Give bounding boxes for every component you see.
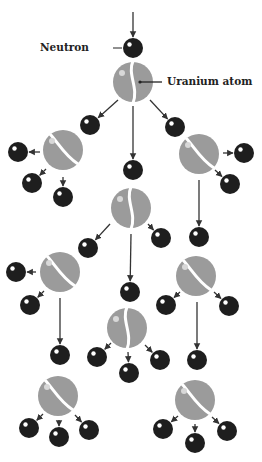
neutron	[153, 419, 173, 439]
highlight-icon	[182, 264, 188, 270]
highlight-icon	[127, 42, 131, 46]
highlight-icon	[155, 232, 159, 236]
neutron	[50, 345, 70, 365]
neutron-path-arrow	[171, 416, 178, 422]
highlight-icon	[84, 119, 88, 123]
neutron-path-arrow	[215, 170, 222, 176]
highlight-icon	[185, 142, 191, 148]
highlight-icon	[117, 196, 123, 202]
neutron	[156, 295, 176, 315]
uranium-atom	[179, 134, 219, 174]
uranium-atom	[38, 376, 78, 416]
neutron	[120, 282, 140, 302]
highlight-icon	[193, 231, 197, 235]
uranium-atom	[111, 187, 151, 229]
neutron-path-arrow	[130, 234, 131, 281]
highlight-icon	[82, 242, 86, 246]
uranium-atom	[40, 252, 80, 292]
neutron	[8, 142, 28, 162]
highlight-icon	[49, 138, 55, 144]
highlight-icon	[124, 286, 128, 290]
neutron	[6, 262, 26, 282]
highlight-icon	[181, 388, 187, 394]
neutron-path-arrow	[105, 343, 111, 349]
uranium-atom	[176, 256, 216, 296]
highlight-icon	[26, 177, 30, 181]
highlight-icon	[113, 316, 119, 322]
highlight-icon	[157, 423, 161, 427]
neutron	[220, 174, 240, 194]
neutron	[19, 418, 39, 438]
neutron	[119, 363, 139, 383]
highlight-icon	[169, 121, 173, 125]
neutron-path-arrow	[75, 415, 81, 422]
neutron-path-arrow	[40, 169, 46, 175]
neutron	[150, 350, 170, 370]
highlight-icon	[23, 422, 27, 426]
highlight-icon	[189, 437, 193, 441]
highlight-icon	[224, 178, 228, 182]
neutron	[151, 228, 171, 248]
neutron	[187, 350, 207, 370]
incoming-neutron	[123, 38, 143, 58]
chain-reaction-diagram: Neutron Uranium atom	[0, 0, 262, 462]
highlight-icon	[44, 384, 50, 390]
neutron	[53, 187, 73, 207]
neutron	[20, 295, 40, 315]
neutron	[189, 227, 209, 247]
highlight-icon	[53, 431, 57, 435]
neutron	[78, 238, 98, 258]
uranium-label: Uranium atom	[167, 75, 252, 87]
neutron-path-arrow	[95, 224, 110, 240]
neutron	[217, 421, 237, 441]
neutron-path-arrow	[38, 291, 44, 297]
highlight-icon	[46, 260, 52, 266]
neutron	[49, 427, 69, 447]
neutron	[87, 347, 107, 367]
highlight-icon	[191, 354, 195, 358]
neutron-path-arrow	[98, 100, 118, 118]
neutron-label: Neutron	[40, 41, 89, 53]
highlight-icon	[91, 351, 95, 355]
highlight-icon	[54, 349, 58, 353]
highlight-icon	[160, 299, 164, 303]
neutron-path-arrow	[37, 414, 43, 420]
uranium-atom	[175, 380, 215, 420]
highlight-icon	[127, 164, 131, 168]
neutron	[185, 433, 205, 453]
uranium-atom	[107, 307, 147, 349]
highlight-icon	[57, 191, 61, 195]
highlight-icon	[119, 70, 125, 76]
neutron	[22, 173, 42, 193]
neutron	[80, 115, 100, 135]
highlight-icon	[10, 266, 14, 270]
neutron	[123, 160, 143, 180]
highlight-icon	[154, 354, 158, 358]
neutron-path-arrow	[145, 345, 152, 352]
neutron	[234, 143, 254, 163]
highlight-icon	[12, 146, 16, 150]
neutron	[165, 117, 185, 137]
neutron-path-arrow	[148, 224, 154, 230]
highlight-icon	[123, 367, 127, 371]
neutron-path-arrow	[150, 100, 168, 119]
highlight-icon	[83, 424, 87, 428]
neutron-path-arrow	[212, 417, 219, 423]
highlight-icon	[238, 147, 242, 151]
uranium-label-dot	[138, 80, 141, 83]
neutron-path-arrow	[174, 292, 180, 298]
uranium-atom	[43, 130, 83, 170]
neutron	[79, 420, 99, 440]
neutron-path-arrow	[214, 292, 221, 298]
highlight-icon	[24, 299, 28, 303]
neutron	[219, 296, 239, 316]
highlight-icon	[221, 425, 225, 429]
highlight-icon	[223, 300, 227, 304]
